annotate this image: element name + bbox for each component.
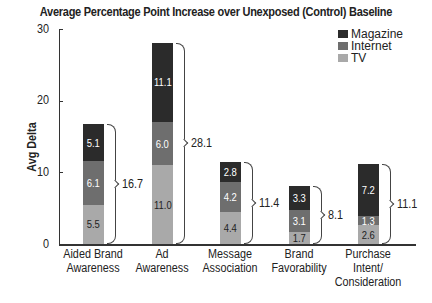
y-tick-mark <box>59 101 63 102</box>
legend: Magazine Internet TV <box>338 28 403 64</box>
stacked-bar: 2.61.37.2 <box>358 164 379 244</box>
bar-segment-internet: 4.2 <box>220 182 241 212</box>
category-label-line: Consideration <box>323 275 413 289</box>
total-label: 8.1 <box>328 208 343 222</box>
segment-value-label: 11.1 <box>154 76 172 88</box>
stacked-bar: 5.56.15.1 <box>83 124 104 244</box>
total-label: 16.7 <box>122 177 143 191</box>
x-axis <box>59 244 416 246</box>
bar-segment-magazine: 5.1 <box>83 124 104 161</box>
segment-value-label: 3.3 <box>293 192 306 204</box>
y-tick-20: 20 <box>31 93 49 107</box>
segment-value-label: 6.0 <box>156 138 169 150</box>
segment-value-label: 5.1 <box>87 137 100 149</box>
total-label: 11.1 <box>397 197 417 211</box>
stacked-bar: 4.44.22.8 <box>220 162 241 244</box>
legend-swatch <box>338 30 348 38</box>
legend-label: TV <box>351 52 366 64</box>
segment-value-label: 4.2 <box>224 191 237 203</box>
total-label: 28.1 <box>191 136 212 150</box>
bar-segment-internet: 3.1 <box>289 210 310 232</box>
segment-value-label: 6.1 <box>87 177 100 189</box>
legend-swatch <box>338 42 348 50</box>
segment-value-label: 11.0 <box>154 199 172 211</box>
stacked-bar: 1.73.13.3 <box>289 186 310 244</box>
legend-item-internet: Internet <box>338 40 403 52</box>
bar-segment-magazine: 11.1 <box>152 43 173 123</box>
y-tick-mark <box>59 172 63 173</box>
segment-value-label: 7.2 <box>362 184 375 196</box>
bar-segment-tv: 11.0 <box>152 165 173 244</box>
stacked-bar: 11.06.011.1 <box>152 43 173 244</box>
bar-segment-magazine: 3.3 <box>289 186 310 210</box>
segment-value-label: 2.8 <box>224 166 237 178</box>
bar-segment-tv: 2.6 <box>358 225 379 244</box>
chart-title: Average Percentage Point Increase over U… <box>26 5 406 19</box>
segment-value-label: 1.7 <box>293 232 306 244</box>
y-tick-0: 0 <box>31 237 49 251</box>
segment-value-label: 4.4 <box>224 222 237 234</box>
segment-value-label: 1.3 <box>362 215 375 227</box>
bar-segment-tv: 5.5 <box>83 205 104 244</box>
total-label: 11.4 <box>259 196 279 210</box>
bar-segment-magazine: 2.8 <box>220 162 241 182</box>
legend-swatch <box>338 54 348 62</box>
category-label-line: Intent/ <box>323 261 413 275</box>
segment-value-label: 2.6 <box>362 229 375 241</box>
segment-value-label: 5.5 <box>87 218 100 230</box>
bar-segment-tv: 1.7 <box>289 232 310 244</box>
bar-segment-internet: 6.1 <box>83 161 104 205</box>
bar-segment-magazine: 7.2 <box>358 164 379 216</box>
y-tick-mark <box>59 29 63 30</box>
y-axis <box>59 29 60 245</box>
y-tick-30: 30 <box>31 22 49 36</box>
segment-value-label: 3.1 <box>293 215 306 227</box>
bar-segment-internet: 6.0 <box>152 122 173 165</box>
category-label-line: Purchase <box>323 247 413 261</box>
category-label: PurchaseIntent/Consideration <box>323 247 413 289</box>
legend-item-tv: TV <box>338 52 403 64</box>
bar-segment-tv: 4.4 <box>220 212 241 244</box>
bar-segment-internet: 1.3 <box>358 216 379 225</box>
y-tick-10: 10 <box>31 165 49 179</box>
